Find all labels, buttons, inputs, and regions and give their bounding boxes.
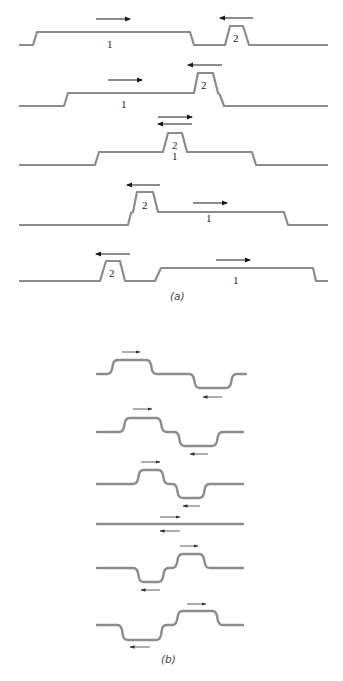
string-wave [19, 192, 328, 225]
string-wave [97, 360, 246, 388]
panel-b-row-3 [97, 462, 243, 506]
string-wave [97, 470, 243, 498]
pulse-2-label: 2 [233, 32, 239, 44]
panel-b-row-1 [97, 352, 246, 397]
pulse-2-label: 2 [201, 79, 207, 91]
string-wave [97, 418, 243, 446]
panel-a-row-5: 2 1 [19, 254, 328, 286]
panel-b: (b) [97, 352, 246, 665]
string-wave [97, 611, 243, 640]
panel-b-row-4 [97, 517, 243, 531]
pulse-1-label: 1 [121, 98, 127, 110]
panel-a-row-2: 1 2 [19, 65, 328, 110]
pulse-1-label: 1 [233, 274, 239, 286]
pulse-1-label: 1 [206, 212, 212, 224]
pulse-1-label: 1 [107, 38, 113, 50]
string-wave [19, 73, 328, 106]
pulse-1-label: 1 [172, 150, 178, 162]
string-wave [19, 261, 328, 281]
panel-b-row-2 [97, 409, 243, 454]
pulse-2-label: 2 [109, 267, 115, 279]
panel-a-row-4: 2 1 [19, 185, 328, 225]
pulse-2-label: 2 [142, 199, 148, 211]
panel-a-caption: (a) [170, 290, 185, 302]
panel-b-caption: (b) [161, 653, 176, 665]
string-wave [19, 26, 328, 45]
pulse-superposition-diagram: 1 2 1 2 2 1 2 1 [0, 0, 343, 681]
panel-b-row-5 [97, 546, 243, 590]
panel-a-row-3: 2 1 [19, 117, 328, 165]
panel-b-row-6 [97, 604, 243, 647]
panel-a: 1 2 1 2 2 1 2 1 [19, 18, 328, 302]
string-wave [97, 554, 243, 582]
panel-a-row-1: 1 2 [19, 18, 328, 50]
